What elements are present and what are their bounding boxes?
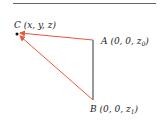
label-a-name: A — [101, 36, 108, 46]
label-a-coords: (0, 0, z — [110, 36, 141, 46]
label-c-name: C — [14, 20, 21, 30]
arrow-b-c — [20, 36, 93, 100]
label-a: A (0, 0, z0) — [101, 36, 149, 49]
label-c-coords: (x, y, z) — [24, 20, 56, 30]
point-c-dot — [16, 33, 19, 36]
label-b: B (0, 0, z1) — [90, 104, 138, 117]
label-b-close: ) — [134, 104, 138, 114]
arrow-a-c — [20, 33, 93, 40]
label-a-close: ) — [145, 36, 149, 46]
label-b-coords: (0, 0, z — [100, 104, 131, 114]
label-c: C (x, y, z) — [14, 20, 56, 30]
label-b-name: B — [90, 104, 97, 114]
